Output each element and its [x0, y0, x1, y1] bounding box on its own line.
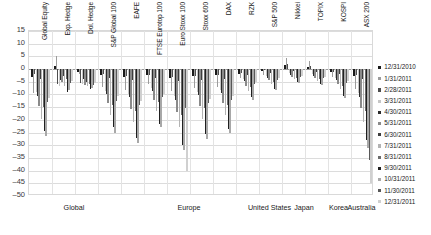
- legend-label: 10/31/2011: [384, 176, 415, 182]
- y-tick-label: –30: [1, 140, 25, 147]
- category-label: ASX 200: [364, 2, 371, 76]
- y-tick-label: –15: [1, 102, 25, 109]
- legend-item[interactable]: 2/28/2011: [378, 84, 431, 95]
- category-separator: [236, 31, 237, 194]
- legend-item[interactable]: 9/30/2011: [378, 163, 431, 174]
- category-label: EAFE: [134, 2, 141, 76]
- legend-label: 7/31/2011: [384, 143, 412, 149]
- legend-swatch-icon: [378, 100, 381, 103]
- legend: 12/31/20101/31/20112/28/20113/31/20114/3…: [378, 62, 431, 207]
- category-label: FTSE Eurotop 100: [157, 2, 164, 76]
- legend-label: 4/30/2011: [384, 109, 412, 115]
- y-tick-label: –20: [1, 115, 25, 122]
- legend-item[interactable]: 10/31/2011: [378, 174, 431, 185]
- y-tick-label: –50: [1, 191, 25, 198]
- legend-label: 8/31/2011: [384, 154, 412, 160]
- y-tick-label: 0: [1, 64, 25, 71]
- category-separator: [282, 31, 283, 194]
- category-separator: [144, 31, 145, 194]
- y-tick-label: 10: [1, 39, 25, 46]
- category-label: S&P 500: [272, 2, 279, 76]
- bar: [370, 69, 371, 183]
- category-label: S&P Global 100: [111, 2, 118, 76]
- category-separator: [190, 31, 191, 194]
- category-separator: [167, 31, 168, 194]
- category-label: Global Equity: [42, 2, 49, 76]
- legend-item[interactable]: 5/31/2011: [378, 118, 431, 129]
- category-label: Exp. Hedge: [65, 2, 72, 76]
- legend-item[interactable]: 12/31/2011: [378, 196, 431, 207]
- legend-swatch-icon: [378, 189, 381, 192]
- y-tick-label: –35: [1, 153, 25, 160]
- legend-item[interactable]: 3/31/2011: [378, 96, 431, 107]
- legend-item[interactable]: 7/31/2011: [378, 140, 431, 151]
- legend-swatch-icon: [378, 178, 381, 181]
- group-label: Global: [34, 204, 114, 212]
- legend-swatch-icon: [378, 167, 381, 170]
- category-label: DAX: [226, 2, 233, 76]
- legend-item[interactable]: 8/31/2011: [378, 152, 431, 163]
- legend-swatch-icon: [378, 111, 381, 114]
- legend-swatch-icon: [378, 88, 381, 91]
- y-tick-label: –5: [1, 77, 25, 84]
- legend-label: 5/31/2011: [384, 120, 412, 126]
- legend-label: 1/31/2011: [384, 76, 412, 82]
- legend-item[interactable]: 1/31/2011: [378, 73, 431, 84]
- category-separator: [98, 31, 99, 194]
- category-label: Dol. Hedge: [88, 2, 95, 76]
- legend-label: 11/30/2011: [384, 188, 415, 194]
- category-separator: [351, 31, 352, 194]
- category-label: KOSPI: [341, 2, 348, 76]
- category-separator: [259, 31, 260, 194]
- legend-label: 3/31/2011: [384, 98, 412, 104]
- legend-item[interactable]: 4/30/2011: [378, 107, 431, 118]
- legend-swatch-icon: [378, 144, 381, 147]
- category-separator: [75, 31, 76, 194]
- legend-swatch-icon: [378, 200, 381, 203]
- gridline: [29, 158, 372, 159]
- y-tick-label: 5: [1, 51, 25, 58]
- category-separator: [328, 31, 329, 194]
- y-tick-label: 15: [1, 26, 25, 33]
- category-separator: [52, 31, 53, 194]
- y-tick-label: –10: [1, 89, 25, 96]
- category-separator: [213, 31, 214, 194]
- category-label: Euro Stoxx 100: [180, 2, 187, 76]
- category-label: TOPIX: [318, 2, 325, 76]
- legend-item[interactable]: 11/30/2011: [378, 185, 431, 196]
- legend-item[interactable]: 6/30/2011: [378, 129, 431, 140]
- legend-item[interactable]: 12/31/2010: [378, 62, 431, 73]
- legend-swatch-icon: [378, 66, 381, 69]
- legend-swatch-icon: [378, 122, 381, 125]
- gridline: [29, 183, 372, 184]
- legend-swatch-icon: [378, 156, 381, 159]
- gridline: [29, 171, 372, 172]
- bar: [186, 69, 187, 171]
- category-label: Nikkei: [295, 2, 302, 76]
- bar-chart: 151050–5–10–15–20–25–30–35–40–45–50 Glob…: [0, 0, 431, 235]
- legend-label: 2/28/2011: [384, 87, 412, 93]
- y-tick-label: –25: [1, 128, 25, 135]
- category-separator: [305, 31, 306, 194]
- y-tick-label: –45: [1, 178, 25, 185]
- legend-label: 12/31/2011: [384, 199, 415, 205]
- group-label: Europe: [149, 204, 229, 212]
- bar: [56, 56, 57, 69]
- y-tick-label: –40: [1, 166, 25, 173]
- category-label: RZK: [249, 2, 256, 76]
- category-label: Stoxx 600: [203, 2, 210, 76]
- gridline: [29, 107, 372, 108]
- gridline: [29, 120, 372, 121]
- legend-swatch-icon: [378, 77, 381, 80]
- legend-swatch-icon: [378, 133, 381, 136]
- gridline: [29, 133, 372, 134]
- category-separator: [121, 31, 122, 194]
- legend-label: 6/30/2011: [384, 132, 412, 138]
- legend-label: 9/30/2011: [384, 165, 412, 171]
- legend-label: 12/31/2010: [384, 64, 416, 70]
- gridline: [29, 145, 372, 146]
